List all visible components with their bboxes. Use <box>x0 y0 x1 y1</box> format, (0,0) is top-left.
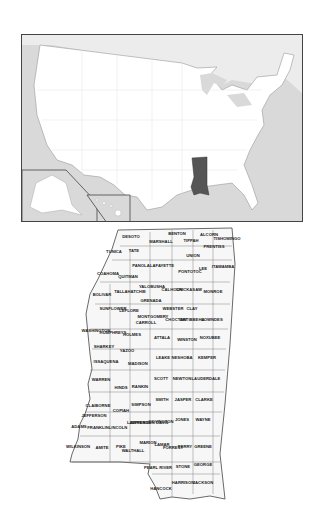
county-label: TALLAHATCHIE <box>114 289 146 294</box>
mississippi-county-map: DESOTOMARSHALLBENTONTIPPAHALCORNTISHOMIN… <box>60 224 260 524</box>
county-label: SMITH <box>155 397 168 402</box>
county-label: WAYNE <box>196 417 211 422</box>
county-label: UNION <box>186 253 200 258</box>
county-label: TUNICA <box>106 249 122 254</box>
county-label: HOLMES <box>123 332 141 337</box>
county-label: GRENADA <box>140 298 161 303</box>
county-label: WALTHALL <box>122 448 145 453</box>
county-label: RANKIN <box>132 384 148 389</box>
county-label: DESOTO <box>122 234 140 239</box>
county-label: GEORGE <box>194 462 213 467</box>
county-label: SCOTT <box>154 376 169 381</box>
county-label: PERRY <box>178 444 192 449</box>
county-label: JASPER <box>175 397 192 402</box>
county-label: AMITE <box>95 445 108 450</box>
county-label: WILKINSON <box>66 444 90 449</box>
county-label: CLARKE <box>195 397 213 402</box>
county-label: JONES <box>175 417 189 422</box>
county-label: CLAY <box>186 306 197 311</box>
county-label: NOXUBEE <box>200 335 221 340</box>
county-label: TISHOMINGO <box>214 236 242 241</box>
county-label: ATTALA <box>154 335 170 340</box>
county-label: LINCOLN <box>109 425 128 430</box>
county-label: LEAKE <box>156 355 170 360</box>
county-label: COVINGTON <box>148 419 173 424</box>
county-label: BOLIVAR <box>93 292 112 297</box>
county-label: SHARKEY <box>94 344 115 349</box>
county-label: WEBSTER <box>163 306 184 311</box>
county-label: HANCOCK <box>150 486 171 491</box>
county-label: BENTON <box>168 231 186 236</box>
county-label: TATE <box>129 248 140 253</box>
county-label: YAZOO <box>120 348 135 353</box>
mississippi-highlight <box>191 157 209 195</box>
us-locator-map <box>21 34 303 222</box>
county-label: FRANKLIN <box>87 425 108 430</box>
county-label: SIMPSON <box>131 402 150 407</box>
county-label: JACKSON <box>193 480 213 485</box>
county-label: COAHOMA <box>97 271 119 276</box>
county-label: HINDS <box>114 385 127 390</box>
county-label: GREENE <box>194 444 212 449</box>
county-label: WARREN <box>92 377 111 382</box>
county-label: ISSAQUENA <box>94 359 119 364</box>
county-label: MADISON <box>128 361 148 366</box>
county-label: JEFFERSON <box>81 413 106 418</box>
county-label: PANOLA <box>132 263 149 268</box>
county-label: ITAWAMBA <box>212 264 235 269</box>
county-label: KEMPER <box>198 355 216 360</box>
county-label: CARROLL <box>136 320 157 325</box>
county-label: HARRISON <box>172 480 194 485</box>
county-label: NESHOBA <box>172 355 193 360</box>
county-label: ADAMS <box>71 424 87 429</box>
county-label: COPIAH <box>113 408 129 413</box>
county-label: PRENTISS <box>204 244 225 249</box>
county-label: CLAIBORNE <box>86 403 111 408</box>
county-map-graphic: DESOTOMARSHALLBENTONTIPPAHALCORNTISHOMIN… <box>60 224 260 524</box>
county-label: LEFLORE <box>119 308 139 313</box>
county-label: PEARL RIVER <box>144 465 172 470</box>
county-label: WINSTON <box>177 337 197 342</box>
county-label: LAFAYETTE <box>150 263 174 268</box>
county-label: NEWTON <box>173 376 192 381</box>
county-label: MONROE <box>204 289 223 294</box>
county-label: MARSHALL <box>149 239 173 244</box>
county-label: TIPPAH <box>183 238 198 243</box>
county-label: CHICKASAW <box>176 287 202 292</box>
us-map-graphic <box>22 35 303 222</box>
county-label: LOWNDES <box>201 317 223 322</box>
county-label: STONE <box>176 464 191 469</box>
county-label: LEE <box>199 266 207 271</box>
county-label: LAUDERDALE <box>192 376 221 381</box>
county-label: QUITMAN <box>118 274 138 279</box>
county-label: MONTGOMERY <box>138 314 169 319</box>
